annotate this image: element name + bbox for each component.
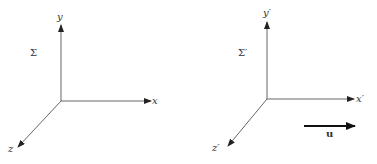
frame-label-sigma-prime: Σ′ — [238, 47, 248, 58]
velocity-label: u — [326, 128, 333, 139]
frame-label-sigma: Σ — [30, 47, 37, 58]
y-axis-label: y — [56, 11, 63, 22]
z-prime-axis — [228, 99, 267, 146]
velocity-arrow-group: u — [304, 126, 355, 139]
z-axis-label: z — [7, 143, 14, 154]
x-prime-axis-label: x′ — [356, 93, 365, 104]
z-axis — [18, 101, 61, 147]
z-prime-axis-label: z′ — [211, 142, 220, 153]
frame-sigma-prime: y′ x′ z′ Σ′ — [211, 7, 365, 153]
x-axis-label: x — [152, 95, 158, 106]
diagram-canvas: y x z Σ y′ x′ z′ Σ′ u — [0, 0, 377, 164]
y-prime-axis-label: y′ — [262, 7, 272, 18]
frame-sigma: y x z Σ — [7, 11, 158, 154]
